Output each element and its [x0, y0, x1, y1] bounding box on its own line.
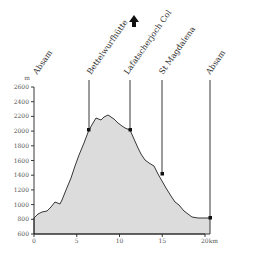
- y-tick-label: 1600: [14, 157, 29, 164]
- place-label-bettelwurfhuette: Bettelwurfhütte: [85, 18, 130, 76]
- x-tick-label: 10: [116, 237, 124, 244]
- place-label-absam-start: Absam: [31, 48, 55, 77]
- north-arrow-icon: [129, 15, 139, 27]
- elevation-profile-chart: Absam Bettelwurfhütte Lafatscherjoch Col…: [0, 0, 253, 256]
- y-tick-label: 600: [18, 230, 30, 237]
- x-axis-labels: 0 5 10 15 20km: [32, 237, 218, 244]
- y-tick-label: 2200: [14, 112, 29, 119]
- y-tick-label: 2600: [14, 83, 29, 90]
- y-unit-label: m: [24, 74, 30, 81]
- x-tick-label: 15: [158, 237, 166, 244]
- x-tick-label: 0: [32, 237, 36, 244]
- x-tick-label: 5: [75, 237, 79, 244]
- y-tick-label: 2400: [14, 98, 29, 105]
- y-tick-label: 800: [18, 215, 30, 222]
- y-tick-label: 1800: [14, 142, 29, 149]
- y-axis-labels: m 2600 2400 2200 2000 1800 1600 1400 120…: [14, 74, 31, 237]
- place-labels: Absam Bettelwurfhütte Lafatscherjoch Col…: [31, 8, 228, 77]
- elevation-area: [34, 115, 210, 234]
- y-tick-label: 1200: [14, 186, 29, 193]
- place-label-st-magdalena: St Magdalena: [157, 25, 197, 77]
- y-tick-label: 2000: [14, 127, 29, 134]
- x-tick-label: 20km: [201, 237, 218, 244]
- place-label-absam-end: Absam: [204, 48, 228, 77]
- y-tick-label: 1400: [14, 171, 29, 178]
- y-tick-label: 1000: [14, 201, 29, 208]
